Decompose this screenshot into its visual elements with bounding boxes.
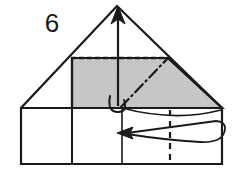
step-number-label: 6 bbox=[45, 8, 59, 38]
origami-diagram: 6 bbox=[0, 0, 236, 177]
origami-diagram-svg: 6 bbox=[0, 0, 236, 177]
